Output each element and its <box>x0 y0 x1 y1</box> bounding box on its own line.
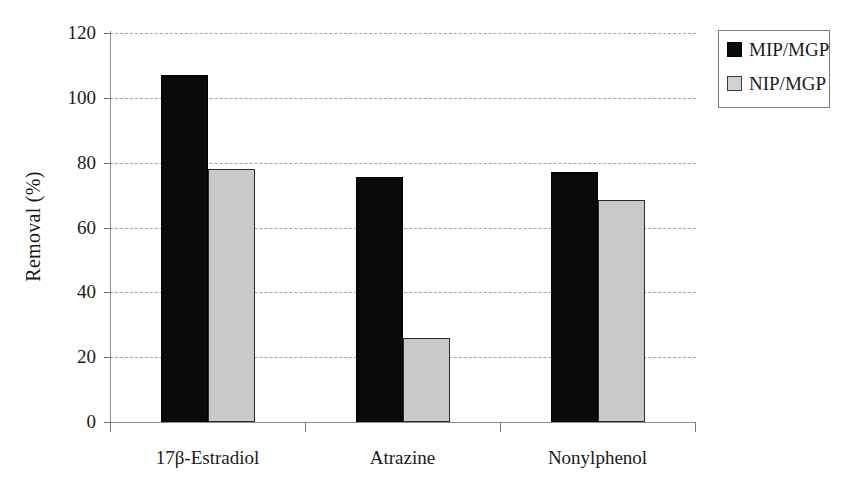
legend-item-nip[interactable]: NIP/MGP <box>727 74 826 93</box>
x-axis-line <box>110 422 696 423</box>
x-tick-0 <box>110 422 111 432</box>
y-axis-label-0: 0 <box>32 412 96 431</box>
legend-label-mip: MIP/MGP <box>749 40 829 59</box>
x-tick-3 <box>695 422 696 432</box>
y-axis-label-20: 20 <box>32 347 96 366</box>
legend-label-nip: NIP/MGP <box>749 74 826 93</box>
y-axis-label-wrap-120: 120 <box>32 33 96 34</box>
y-axis-label-100: 100 <box>32 88 96 107</box>
y-axis-label-wrap-0: 0 <box>32 422 96 423</box>
bar-chart-figure: Removal (%) 020406080100120 17β-Estradio… <box>0 0 856 500</box>
gridline-120 <box>110 33 696 34</box>
x-category-label-2: Nonylphenol <box>500 447 695 469</box>
y-axis-label-120: 120 <box>32 23 96 42</box>
x-tick-2 <box>500 422 501 432</box>
bar-nip-mgp-1 <box>403 338 450 422</box>
y-axis-label-wrap-60: 60 <box>32 228 96 229</box>
bar-mip-mgp-0 <box>161 75 208 422</box>
bar-nip-mgp-0 <box>208 169 255 422</box>
y-axis-label-wrap-80: 80 <box>32 163 96 164</box>
y-axis-label-80: 80 <box>32 153 96 172</box>
legend-swatch-open-square-icon <box>727 76 742 91</box>
y-axis-label-40: 40 <box>32 282 96 301</box>
y-axis-label-wrap-20: 20 <box>32 357 96 358</box>
bar-nip-mgp-2 <box>598 200 645 422</box>
y-axis-label-60: 60 <box>32 218 96 237</box>
y-axis-line <box>110 31 111 424</box>
y-axis-label-wrap-100: 100 <box>32 98 96 99</box>
legend-item-mip[interactable]: MIP/MGP <box>727 40 829 59</box>
x-tick-1 <box>305 422 306 432</box>
bar-mip-mgp-2 <box>551 172 598 422</box>
y-axis-label-wrap-40: 40 <box>32 292 96 293</box>
x-category-label-0: 17β-Estradiol <box>110 447 305 469</box>
x-category-label-1: Atrazine <box>305 447 500 469</box>
legend-swatch-filled-square-icon <box>727 42 742 57</box>
chart-legend: MIP/MGP NIP/MGP <box>718 30 830 108</box>
bar-mip-mgp-1 <box>356 177 403 422</box>
